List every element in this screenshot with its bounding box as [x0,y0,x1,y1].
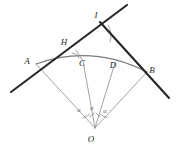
geometry-diagram: A B C D H I O ααα [0,0,177,147]
point-label-c: C [79,58,86,68]
geometry-figure-canvas: A B C D H I O ααα [0,0,177,147]
point-label-a: A [23,56,30,66]
point-label-h: H [60,37,68,47]
point-label-d: D [109,60,117,70]
alpha-left: α [77,106,81,113]
alpha-middle: α [90,104,94,111]
point-label-o: O [88,134,95,144]
point-label-b: B [149,65,155,75]
alpha-right: α [103,107,107,114]
